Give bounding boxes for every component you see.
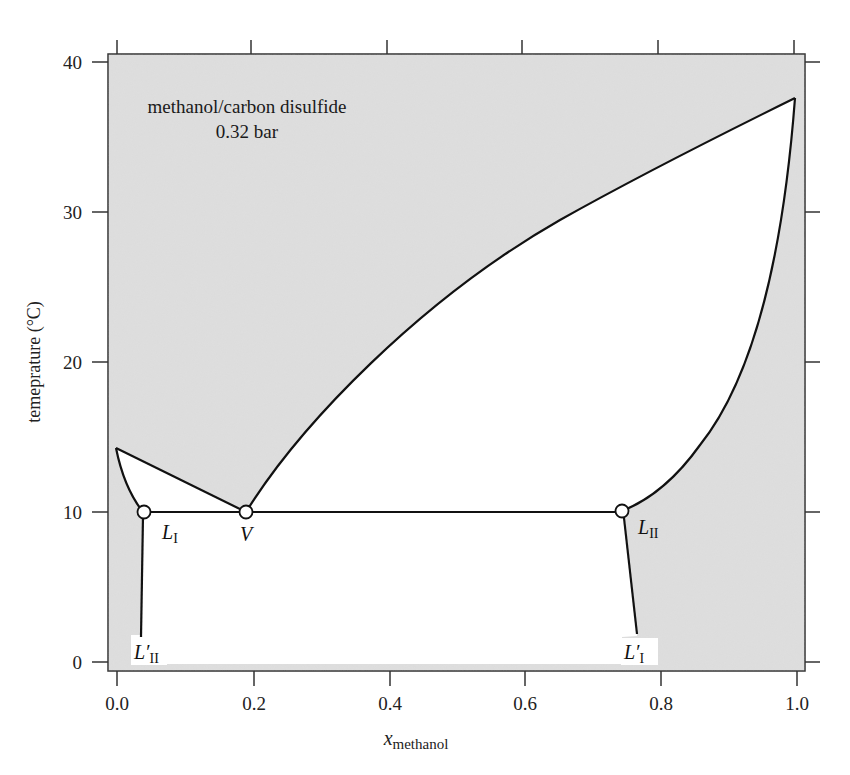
x-tick-0.6: 0.6 — [513, 693, 537, 714]
y-tick-10: 10 — [63, 502, 82, 523]
phase-diagram: 40 30 20 10 0 0.0 0.2 0.4 0.6 0.8 1.0 te… — [0, 0, 850, 775]
point-LI — [138, 506, 151, 519]
y-tick-20: 20 — [63, 352, 82, 373]
y-axis-label: temeprature (°C) — [24, 301, 45, 423]
y-tick-30: 30 — [63, 202, 82, 223]
two-liquid-region — [141, 512, 637, 664]
chart-subtitle: 0.32 bar — [216, 121, 279, 142]
x-axis-label: xmethanol — [383, 727, 449, 752]
x-tick-0.2: 0.2 — [242, 693, 266, 714]
y-tick-0: 0 — [73, 652, 83, 673]
y-tick-40: 40 — [63, 52, 82, 73]
x-tick-0.4: 0.4 — [378, 693, 402, 714]
x-tick-0.8: 0.8 — [649, 693, 673, 714]
point-LII — [616, 505, 629, 518]
x-tick-1.0: 1.0 — [785, 693, 809, 714]
point-V — [240, 506, 253, 519]
chart-title: methanol/carbon disulfide — [148, 96, 347, 117]
x-tick-0.0: 0.0 — [105, 693, 129, 714]
